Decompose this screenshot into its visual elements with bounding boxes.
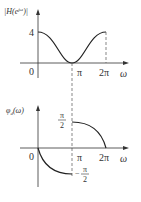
top-y-label: |H(ejω)| — [4, 7, 28, 16]
bottom-y-label: φd(ω) — [6, 106, 24, 116]
x-label-omega: ω — [120, 153, 127, 164]
tick-0: 0 — [29, 66, 34, 77]
tick-neg-pi-over-2-num: π — [83, 165, 87, 174]
magnitude-plot: |H(ejω)| 4 0 π 2π ω — [4, 7, 129, 176]
tick-4: 4 — [29, 27, 34, 38]
x-label-omega: ω — [120, 68, 127, 79]
phase-curve-right — [72, 122, 106, 148]
tick-pi: π — [77, 67, 82, 78]
tick-pi-over-2-den: 2 — [60, 121, 64, 130]
tick-2pi: 2π — [99, 67, 109, 78]
y-axis-arrow-icon — [36, 105, 40, 111]
tick-2pi: 2π — [99, 152, 109, 163]
phase-plot: φd(ω) π 2 0 π 2π ω − π 2 — [6, 105, 129, 187]
figure: |H(ejω)| 4 0 π 2π ω φd(ω) π 2 0 π 2π ω −… — [0, 0, 141, 202]
tick-neg-pi-over-2-den: 2 — [83, 175, 87, 184]
magnitude-curve — [38, 32, 106, 63]
tick-pi-over-2-num: π — [60, 111, 64, 120]
neg-sign: − — [75, 169, 80, 178]
tick-pi: π — [77, 152, 82, 163]
tick-0: 0 — [29, 151, 34, 162]
x-axis-arrow-icon — [123, 61, 129, 65]
phase-curve-left — [38, 148, 72, 174]
x-axis-arrow-icon — [123, 146, 129, 150]
y-axis-arrow-icon — [36, 9, 40, 15]
